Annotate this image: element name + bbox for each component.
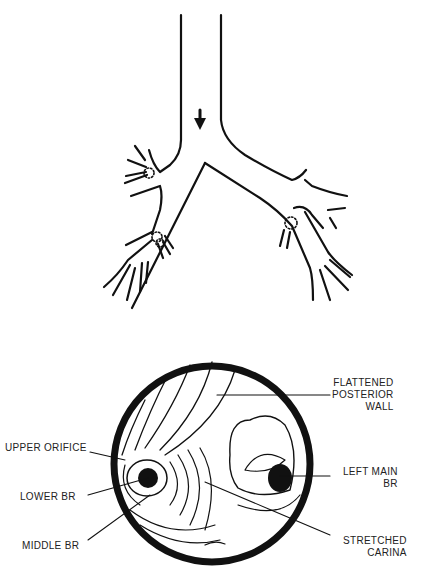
label-left-main-br: LEFT MAIN BR — [343, 466, 398, 490]
label-middle-br: MIDDLE BR — [22, 540, 79, 552]
bronchial-tree — [104, 15, 352, 308]
label-lower-br: LOWER BR — [20, 491, 76, 503]
bronchoscopic-view — [88, 362, 330, 562]
down-arrow-head-icon — [194, 118, 206, 130]
label-upper-orifice: UPPER ORIFICE — [5, 442, 87, 454]
label-flattened-posterior-wall: FLATTENED POSTERIOR WALL — [332, 377, 394, 413]
label-stretched-carina: STRETCHED CARINA — [343, 535, 407, 559]
